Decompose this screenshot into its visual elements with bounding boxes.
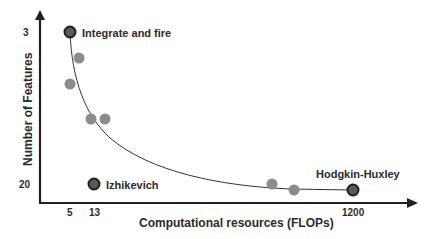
x-tick-5: 5 [67,207,73,218]
data-points [65,53,300,196]
y-axis-arrow-icon [35,10,45,20]
label-hodgkin-huxley: Hodgkin-Huxley [316,168,401,180]
point-izhikevich [89,179,100,190]
y-tick-3: 3 [23,27,29,38]
label-integrate-and-fire: Integrate and fire [82,27,171,39]
trend-curve [70,32,353,190]
x-axis-arrow-icon [407,198,418,208]
y-axis-title: Number of Features [21,52,35,166]
label-izhikevich: Izhikevich [106,179,159,191]
point-integrate-and-fire [65,27,76,38]
x-tick-13: 13 [89,207,101,218]
y-tick-20: 20 [19,179,31,190]
x-tick-1200: 1200 [342,207,365,218]
chart: Integrate and fire Izhikevich Hodgkin-Hu… [0,0,442,239]
point-hodgkin-huxley [348,185,359,196]
x-axis-title: Computational resources (FLOPs) [139,216,334,230]
